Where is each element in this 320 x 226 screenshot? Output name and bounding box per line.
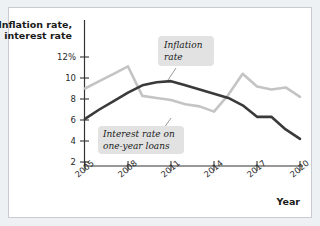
y-tick-label-8: 8 — [71, 94, 76, 104]
x-axis-labels: 2005 2008 2011 2014 2017 2020 — [73, 158, 311, 180]
y-tick-label-4: 4 — [71, 136, 76, 146]
chart-page: Inflation rate, interest rate 12% 10 8 6… — [0, 0, 320, 226]
interest-callout: Interest rate on one-year loans — [98, 118, 184, 154]
x-tick-label-2011: 2011 — [159, 158, 182, 180]
series-line-inflation-rate — [85, 66, 300, 111]
y-axis-title-line1: Inflation rate, — [0, 19, 72, 30]
interest-callout-line2: one-year loans — [103, 141, 170, 151]
y-axis-title-line2: interest rate — [4, 30, 72, 41]
inflation-callout: Inflation rate — [158, 36, 214, 80]
x-tick-label-2008: 2008 — [116, 158, 139, 180]
inflation-callout-line2: rate — [164, 52, 183, 62]
y-tick-label-10: 10 — [65, 73, 76, 83]
x-tick-label-2005: 2005 — [73, 158, 96, 180]
y-tick-label-2: 2 — [71, 157, 76, 167]
x-tick-label-2014: 2014 — [202, 158, 225, 180]
x-axis-title: Year — [275, 196, 300, 207]
x-tick-label-2020: 2020 — [288, 158, 311, 180]
y-tick-label-6: 6 — [71, 115, 76, 125]
y-tick-label-12: 12% — [57, 52, 76, 62]
inflation-callout-line1: Inflation — [163, 40, 203, 50]
x-tick-label-2017: 2017 — [245, 158, 268, 180]
interest-callout-line1: Interest rate on — [102, 129, 175, 139]
line-chart: Inflation rate, interest rate 12% 10 8 6… — [0, 0, 320, 226]
